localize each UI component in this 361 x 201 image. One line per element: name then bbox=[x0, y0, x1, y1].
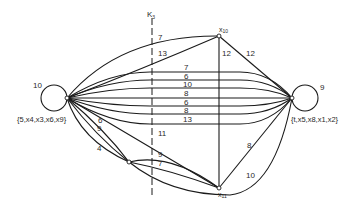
right-hub-set: {t,x5,x8,x1,x2} bbox=[291, 115, 339, 124]
left-hub-node bbox=[65, 96, 69, 100]
edge-left-x10-second bbox=[67, 36, 219, 98]
label-bundle-4: 8 bbox=[184, 89, 189, 98]
label-bundle-7: 13 bbox=[183, 115, 192, 124]
label-left-bottom-mid: 9 bbox=[97, 124, 102, 133]
label-x10-x11: 12 bbox=[222, 49, 231, 58]
left-hub-loop bbox=[41, 85, 67, 111]
x10-label: x10 bbox=[219, 26, 228, 34]
label-left-x11: 11 bbox=[158, 129, 167, 138]
label-bottom-x11-lower: 7 bbox=[158, 159, 163, 168]
x11-label: x11 bbox=[218, 191, 227, 199]
right-hub-node bbox=[290, 96, 294, 100]
edge-bottom-x11-upper bbox=[129, 160, 219, 188]
left-hub-set: {5,x4,x3,x6,x9} bbox=[17, 115, 67, 124]
network-cut-diagram: K3 10 9 {5,x4,x3,x6,x9} {t,x5,x8,x1,x2} … bbox=[0, 0, 361, 201]
label-left-bottom-lower: 4 bbox=[97, 144, 102, 153]
label-left-x10-second: 13 bbox=[158, 49, 167, 58]
label-x11-right: 8 bbox=[247, 141, 252, 150]
edge-left-x11 bbox=[67, 98, 219, 188]
edge-bottom-right-arc bbox=[129, 98, 292, 195]
label-bottom-right-arc: 10 bbox=[246, 171, 255, 180]
bundle-edge-3 bbox=[67, 88, 292, 98]
right-hub-loop bbox=[292, 85, 318, 111]
node-x10 bbox=[217, 34, 221, 38]
label-bundle-6: 8 bbox=[184, 106, 189, 115]
cut-label: K3 bbox=[147, 10, 155, 20]
edge-x11-right bbox=[219, 98, 292, 188]
label-left-x10-top: 7 bbox=[158, 33, 163, 42]
label-bottom-x11-upper: 9 bbox=[158, 150, 163, 159]
node-x11 bbox=[217, 186, 221, 190]
label-bundle-1: 7 bbox=[184, 63, 189, 72]
edge-bottom-x11-lower bbox=[129, 162, 219, 188]
label-bundle-3: 10 bbox=[183, 80, 192, 89]
label-x10-right: 12 bbox=[246, 49, 255, 58]
right-hub-weight: 9 bbox=[320, 83, 325, 92]
left-hub-weight: 10 bbox=[33, 81, 42, 90]
bundle-edge-5 bbox=[67, 98, 292, 106]
node-bottom bbox=[127, 160, 131, 164]
